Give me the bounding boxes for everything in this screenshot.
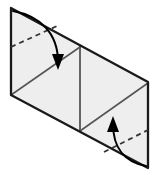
figure-canvas <box>0 0 159 175</box>
paper-folding-figure <box>0 0 159 175</box>
